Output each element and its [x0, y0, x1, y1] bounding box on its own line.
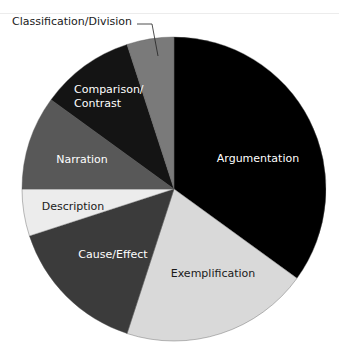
- slice-label-classification-division: Classification/Division: [12, 15, 132, 28]
- slice-label-narration: Narration: [56, 153, 108, 166]
- pie-chart: ArgumentationExemplificationCause/Effect…: [0, 0, 339, 356]
- slice-label-description: Description: [42, 200, 105, 213]
- slice-label-argumentation: Argumentation: [217, 152, 299, 165]
- slice-label-exemplification: Exemplification: [171, 267, 256, 280]
- slice-label-cause-effect: Cause/Effect: [78, 248, 148, 261]
